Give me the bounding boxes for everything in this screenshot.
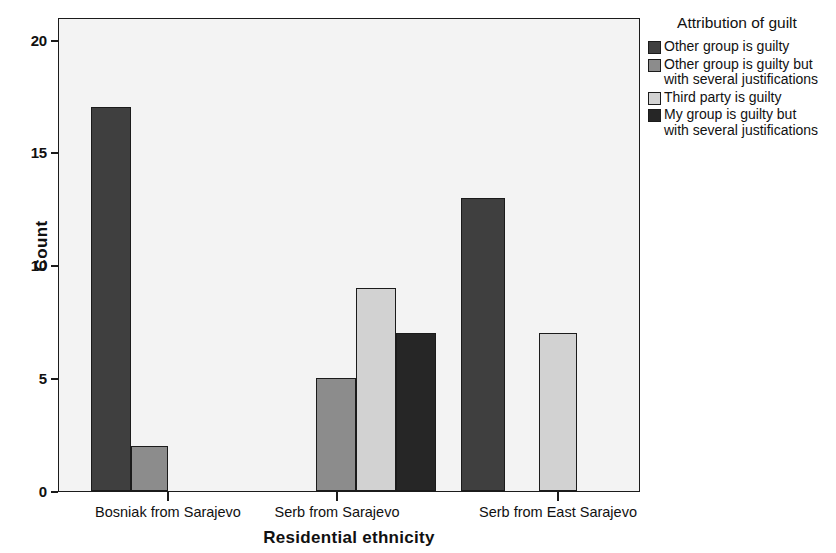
bar bbox=[461, 198, 505, 491]
x-axis: Bosniak from SarajevoSerb from SarajevoS… bbox=[58, 492, 640, 532]
y-tick-mark bbox=[51, 152, 58, 154]
y-tick-label: 20 bbox=[31, 31, 47, 50]
y-tick-mark bbox=[51, 491, 58, 493]
legend-color-swatch bbox=[648, 59, 661, 72]
bar bbox=[91, 107, 131, 491]
x-axis-title: Residential ethnicity bbox=[58, 528, 640, 548]
x-axis-category-label: Serb from East Sarajevo bbox=[479, 503, 637, 521]
legend-item-label: My group is guilty but with several just… bbox=[664, 107, 818, 138]
y-tick-mark bbox=[51, 265, 58, 267]
x-axis-tick bbox=[167, 492, 169, 501]
legend-color-swatch bbox=[648, 41, 661, 54]
plot-frame bbox=[58, 18, 640, 492]
x-axis-tick bbox=[557, 492, 559, 501]
legend-item: Third party is guilty bbox=[648, 90, 836, 106]
legend-item-label: Other group is guilty but with several j… bbox=[664, 57, 818, 88]
bar bbox=[356, 288, 396, 491]
plot-area bbox=[59, 19, 639, 491]
legend-item: My group is guilty but with several just… bbox=[648, 107, 836, 138]
chart-legend: Attribution of guilt Other group is guil… bbox=[648, 14, 836, 140]
bar bbox=[396, 333, 436, 491]
bar bbox=[131, 446, 168, 491]
legend-item: Other group is guilty bbox=[648, 39, 836, 55]
legend-item-label: Other group is guilty bbox=[664, 39, 789, 55]
x-axis-tick bbox=[336, 492, 338, 501]
y-tick-mark bbox=[51, 40, 58, 42]
x-axis-category-label: Serb from Sarajevo bbox=[275, 503, 400, 521]
legend-color-swatch bbox=[648, 109, 661, 122]
y-tick-label: 5 bbox=[39, 369, 47, 388]
y-tick-label: 0 bbox=[39, 482, 47, 501]
x-axis-category-label: Bosniak from Sarajevo bbox=[95, 503, 241, 521]
bar bbox=[316, 378, 356, 491]
legend-item-label: Third party is guilty bbox=[664, 90, 781, 106]
legend-color-swatch bbox=[648, 92, 661, 105]
legend-title: Attribution of guilt bbox=[644, 14, 830, 32]
legend-item: Other group is guilty but with several j… bbox=[648, 57, 836, 88]
bar bbox=[539, 333, 577, 491]
y-axis-title: Count bbox=[32, 166, 52, 326]
y-tick-label: 15 bbox=[31, 143, 47, 162]
chart-figure: 05101520 Count Bosniak from SarajevoSerb… bbox=[0, 0, 836, 553]
y-tick-mark bbox=[51, 378, 58, 380]
legend-entries: Other group is guiltyOther group is guil… bbox=[648, 39, 836, 138]
